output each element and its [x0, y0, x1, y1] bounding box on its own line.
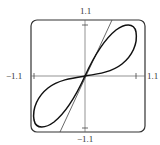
x-min-label: −1.1	[6, 72, 22, 81]
y-min-label: −1.1	[77, 135, 93, 144]
x-max-label: 1.1	[147, 72, 158, 81]
curve-lobe-lower	[34, 76, 85, 127]
curve-lobe-upper	[85, 25, 136, 76]
y-max-label: 1.1	[80, 7, 91, 16]
chart-plot	[0, 0, 160, 145]
